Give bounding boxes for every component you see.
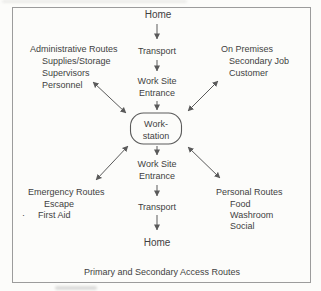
route-item-supervisors: Supervisors xyxy=(42,68,90,78)
first-aid-bullet: · xyxy=(22,210,25,220)
scan-artifact-top xyxy=(2,0,187,3)
administrative-routes-title: Administrative Routes xyxy=(30,44,118,54)
arrow-administrative-workstation xyxy=(93,82,126,113)
workstation-label-line2: station xyxy=(143,131,170,141)
arrow-onpremises-workstation xyxy=(188,81,218,111)
route-item-secondary-job: Secondary Job xyxy=(229,56,289,66)
route-item-escape: Escape xyxy=(44,199,74,209)
label-worksite-bottom-line2: Entrance xyxy=(139,171,175,181)
scan-artifact-bottom xyxy=(55,286,97,290)
route-item-first-aid: First Aid xyxy=(38,210,71,220)
label-transport-bottom: Transport xyxy=(138,202,177,212)
route-item-social: Social xyxy=(230,221,255,231)
arrow-workstation-emergency xyxy=(96,146,128,180)
label-transport-top: Transport xyxy=(138,46,177,56)
route-item-food: Food xyxy=(230,199,251,209)
on-premises-title: On Premises xyxy=(221,44,274,54)
label-home-top: Home xyxy=(145,9,172,20)
label-worksite-top-line1: Work Site xyxy=(138,76,177,86)
route-item-supplies-storage: Supplies/Storage xyxy=(42,56,111,66)
workstation-label-line1: Work- xyxy=(144,119,168,129)
personal-routes-title: Personal Routes xyxy=(216,187,283,197)
emergency-routes-title: Emergency Routes xyxy=(28,187,105,197)
label-worksite-top-line2: Entrance xyxy=(139,88,175,98)
route-item-personnel: Personnel xyxy=(42,80,83,90)
label-home-bottom: Home xyxy=(144,237,171,248)
access-routes-diagram: Home Transport Work Site Entrance Work- … xyxy=(0,0,321,291)
route-item-washroom: Washroom xyxy=(230,210,273,220)
diagram-canvas: Home Transport Work Site Entrance Work- … xyxy=(0,0,321,291)
arrow-workstation-personal xyxy=(188,147,220,178)
route-item-customer: Customer xyxy=(229,68,268,78)
label-worksite-bottom-line1: Work Site xyxy=(138,159,177,169)
diagram-caption: Primary and Secondary Access Routes xyxy=(84,267,241,277)
